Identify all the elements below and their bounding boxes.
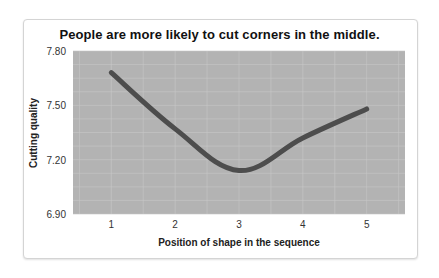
y-tick-label: 6.90 xyxy=(47,209,67,220)
y-axis-ticks: 7.807.507.206.90 xyxy=(47,46,67,220)
y-tick-label: 7.20 xyxy=(47,155,67,166)
y-tick-label: 7.80 xyxy=(47,46,67,57)
x-tick-label: 4 xyxy=(300,219,306,230)
x-tick-label: 1 xyxy=(109,219,115,230)
x-axis-label: Position of shape in the sequence xyxy=(158,237,320,248)
line-chart: 7.807.507.206.90 12345 Cutting quality P… xyxy=(0,0,439,278)
y-axis-label: Cutting quality xyxy=(28,98,39,168)
x-axis-ticks: 12345 xyxy=(109,219,370,230)
x-tick-label: 5 xyxy=(364,219,370,230)
y-tick-label: 7.50 xyxy=(47,100,67,111)
x-tick-label: 2 xyxy=(172,219,178,230)
x-tick-label: 3 xyxy=(236,219,242,230)
